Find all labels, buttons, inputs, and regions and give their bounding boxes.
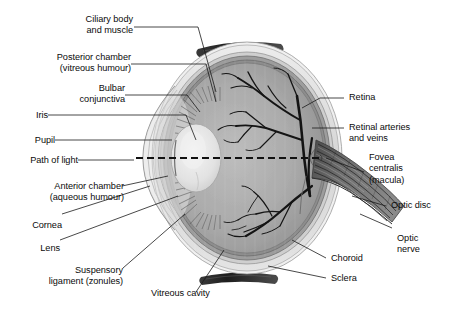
label-optic-nerve: Optic nerve (397, 233, 420, 256)
label-fovea-centralis: Fovea centralis (macula) (369, 152, 404, 186)
label-choroid: Choroid (331, 253, 363, 264)
label-retinal-arteries-and-veins: Retinal arteries and veins (349, 122, 410, 145)
label-anterior-chamber: Anterior chamber (aqueous humour) (50, 181, 124, 204)
eye-diagram-figure: Ciliary body and muscle Posterior chambe… (0, 0, 454, 318)
label-path-of-light: Path of light (30, 155, 78, 166)
extraocular-muscle-inferior (199, 272, 278, 285)
label-ciliary-body-and-muscle: Ciliary body and muscle (86, 14, 133, 37)
label-optic-disc: Optic disc (391, 200, 431, 211)
label-vitreous-cavity: Vitreous cavity (151, 288, 210, 299)
label-suspensory-ligament: Suspensory ligament (zonules) (49, 265, 123, 288)
label-pupil: Pupil (35, 135, 55, 146)
label-iris: Iris (36, 110, 48, 121)
label-lens: Lens (40, 243, 60, 254)
label-bulbar-conjunctiva: Bulbar conjunctiva (80, 83, 125, 106)
label-retina: Retina (349, 92, 375, 103)
label-sclera: Sclera (331, 273, 357, 284)
label-posterior-chamber: Posterior chamber (vitreous humour) (57, 52, 131, 75)
label-cornea: Cornea (32, 220, 62, 231)
